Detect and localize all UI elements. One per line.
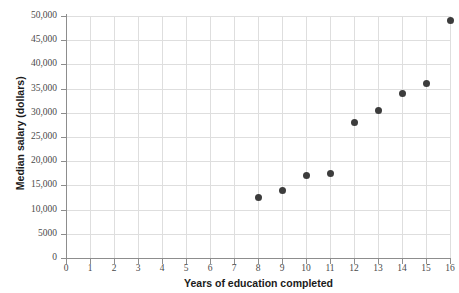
x-axis-tick-label: 0	[54, 264, 78, 274]
gridline-horizontal	[66, 161, 450, 162]
y-axis-tick-label: 15,000	[0, 180, 57, 190]
x-axis-tick-label: 3	[126, 264, 150, 274]
gridline-horizontal	[66, 234, 450, 235]
y-axis-tick-label: 45,000	[0, 35, 57, 45]
x-axis-tick-label: 15	[414, 264, 438, 274]
y-axis-tick	[61, 137, 67, 138]
data-point	[447, 17, 454, 24]
data-point	[351, 119, 358, 126]
x-axis-tick-label: 5	[174, 264, 198, 274]
data-point	[327, 170, 334, 177]
x-axis-tick-label: 10	[294, 264, 318, 274]
gridline-horizontal	[66, 185, 450, 186]
x-axis-tick-label: 8	[246, 264, 270, 274]
scatter-chart: Median salary (dollars) Years of educati…	[0, 0, 459, 293]
x-axis-tick-label: 9	[270, 264, 294, 274]
gridline-horizontal	[66, 89, 450, 90]
y-axis-tick	[61, 16, 67, 17]
y-axis-tick-label: 30,000	[0, 108, 57, 118]
y-axis-tick-label: 40,000	[0, 59, 57, 69]
y-axis-tick	[61, 89, 67, 90]
x-axis-tick-label: 14	[390, 264, 414, 274]
gridline-horizontal	[66, 137, 450, 138]
y-axis-tick	[61, 161, 67, 162]
x-axis-tick-label: 6	[198, 264, 222, 274]
y-axis-tick-label: 50,000	[0, 11, 57, 21]
data-point	[255, 194, 262, 201]
x-axis-tick-label: 16	[438, 264, 459, 274]
y-axis-tick	[61, 234, 67, 235]
x-axis-tick-label: 7	[222, 264, 246, 274]
gridline-vertical	[450, 16, 451, 258]
plot-area	[66, 16, 450, 258]
y-axis-tick	[61, 113, 67, 114]
x-axis-tick-label: 12	[342, 264, 366, 274]
y-axis-tick	[61, 40, 67, 41]
gridline-horizontal	[66, 16, 450, 17]
y-axis-tick-label: 0	[0, 253, 57, 263]
y-axis-tick	[61, 210, 67, 211]
data-point	[303, 172, 310, 179]
y-axis-tick	[61, 64, 67, 65]
y-axis-tick-label: 20,000	[0, 156, 57, 166]
data-point	[375, 107, 382, 114]
data-point	[279, 187, 286, 194]
x-axis-tick-label: 2	[102, 264, 126, 274]
y-axis-tick	[61, 185, 67, 186]
x-axis-tick-label: 11	[318, 264, 342, 274]
y-axis-tick-label: 25,000	[0, 132, 57, 142]
gridline-horizontal	[66, 113, 450, 114]
gridline-horizontal	[66, 64, 450, 65]
y-axis-tick-label: 5000	[0, 229, 57, 239]
gridline-horizontal	[66, 210, 450, 211]
y-axis-tick-label: 35,000	[0, 84, 57, 94]
data-point	[423, 80, 430, 87]
data-point	[399, 90, 406, 97]
x-axis-tick-label: 4	[150, 264, 174, 274]
x-axis-title: Years of education completed	[66, 278, 451, 289]
gridline-horizontal	[66, 40, 450, 41]
y-axis-tick-label: 10,000	[0, 205, 57, 215]
x-axis-tick-label: 13	[366, 264, 390, 274]
x-axis-tick-label: 1	[78, 264, 102, 274]
